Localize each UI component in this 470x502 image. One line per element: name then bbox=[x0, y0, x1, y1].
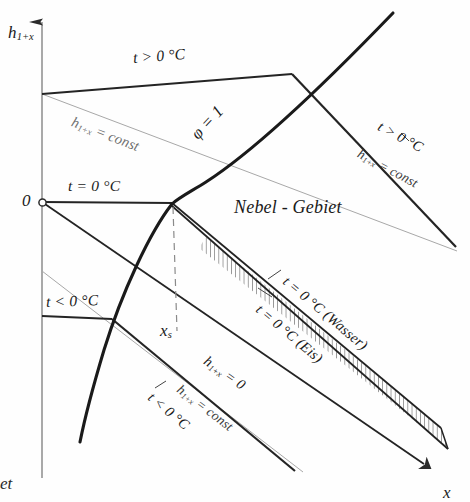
y-axis-label-h: h bbox=[8, 23, 17, 42]
leader-ticks bbox=[155, 133, 409, 388]
origin-label: 0 bbox=[22, 192, 31, 209]
isotherm-t-gt-0 bbox=[42, 74, 456, 247]
y-axis-label-sub: 1+x bbox=[17, 31, 34, 42]
x-axis-label: x bbox=[443, 484, 451, 501]
xs-dashed-dropline bbox=[173, 207, 177, 331]
page-bleed-fragment: et bbox=[0, 474, 12, 494]
mollier-hx-diagram: h1+x 0 t > 0 °C h1+x = const φ = 1 t = 0… bbox=[0, 0, 470, 502]
isotherm-t-eq-0 bbox=[42, 202, 173, 203]
label-xs: xs bbox=[160, 322, 172, 341]
label-t-lt-0-left: t < 0 °C bbox=[46, 292, 99, 309]
y-axis-label: h1+x bbox=[8, 24, 34, 43]
label-t-eq-0: t = 0 °C bbox=[68, 178, 120, 194]
origin-dot bbox=[39, 199, 46, 206]
label-nebel-gebiet: Nebel - Gebiet bbox=[234, 198, 342, 216]
diagram-canvas bbox=[0, 0, 470, 502]
